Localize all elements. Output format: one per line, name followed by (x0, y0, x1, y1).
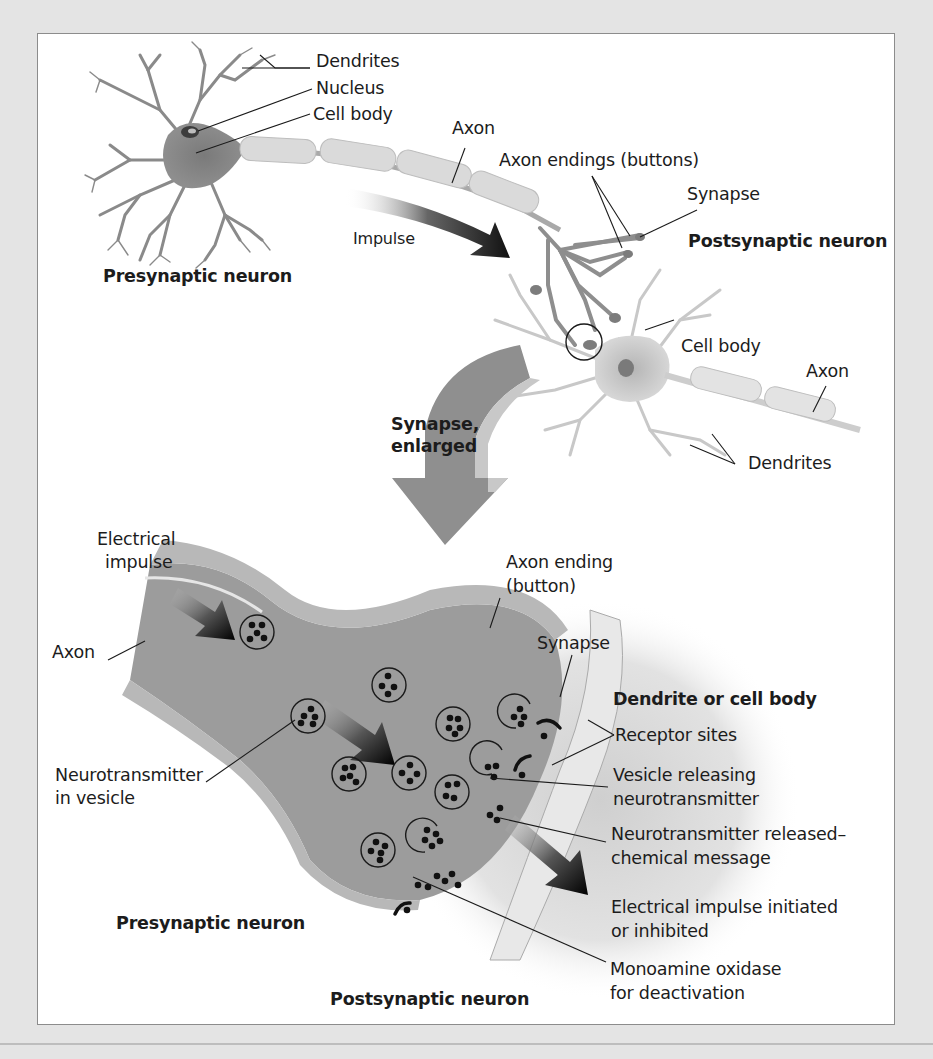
label-electrical-impulse-line1: Electrical (97, 528, 175, 550)
label-nucleus: Nucleus (316, 77, 384, 99)
label-cell-body-post: Cell body (681, 335, 761, 357)
label-axon-post: Axon (806, 360, 849, 382)
label-neurotransmitter-in-vesicle-line2: in vesicle (55, 787, 135, 809)
label-synapse-enlarged-line2: enlarged (391, 435, 477, 457)
postsynaptic-nucleus (618, 359, 634, 377)
label-synapse-enlarged: Synapse (537, 632, 610, 654)
label-vesicle-releasing-line1: Vesicle releasing (613, 764, 756, 786)
label-electrical-impulse-line2: impulse (105, 551, 172, 573)
label-neurotransmitter-in-vesicle-line1: Neurotransmitter (55, 764, 203, 786)
label-dendrites-post: Dendrites (748, 452, 831, 474)
label-impulse-initiated-line1: Electrical impulse initiated (611, 896, 838, 918)
label-vesicle-releasing-line2: neurotransmitter (613, 788, 759, 810)
caption-presynaptic-neuron-bottom: Presynaptic neuron (116, 912, 305, 934)
caption-presynaptic-neuron-top: Presynaptic neuron (103, 265, 292, 287)
caption-postsynaptic-neuron-top: Postsynaptic neuron (688, 230, 887, 252)
label-synapse-enlarged-line1: Synapse, (391, 413, 479, 435)
label-dendrite-or-cell-body: Dendrite or cell body (613, 688, 817, 710)
label-axon-endings: Axon endings (buttons) (499, 149, 699, 171)
label-axon-ending-line2: (button) (506, 575, 576, 597)
label-axon-ending-line1: Axon ending (506, 551, 613, 573)
presynaptic-cell-body (163, 123, 245, 188)
label-neurotransmitter-released-line1: Neurotransmitter released– (611, 823, 846, 845)
label-impulse: Impulse (353, 228, 415, 250)
label-monoamine-oxidase-line2: for deactivation (610, 982, 745, 1004)
caption-postsynaptic-neuron-bottom: Postsynaptic neuron (330, 988, 529, 1010)
label-impulse-initiated-line2: or inhibited (611, 920, 709, 942)
label-dendrites-pre: Dendrites (316, 50, 399, 72)
label-synapse-top: Synapse (687, 183, 760, 205)
axon-terminal-branches (540, 228, 640, 345)
label-receptor-sites: Receptor sites (615, 724, 737, 746)
label-axon-pre: Axon (452, 117, 495, 139)
label-axon-enlarged: Axon (52, 641, 95, 663)
label-cell-body-pre: Cell body (313, 103, 393, 125)
label-monoamine-oxidase-line1: Monoamine oxidase (610, 958, 781, 980)
label-neurotransmitter-released-line2: chemical message (611, 847, 771, 869)
